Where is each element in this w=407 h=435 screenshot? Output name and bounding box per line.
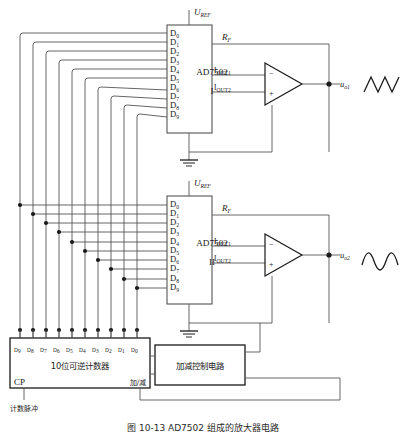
dac1-output-node-dot: [326, 81, 331, 86]
counter-title: 10位可逆计数器: [51, 361, 111, 371]
dac1-opamp-plus: +: [269, 89, 274, 98]
figure-caption: 图 10-13 AD7502 组成的放大器电路: [127, 422, 279, 433]
control-top-wire: [245, 323, 260, 352]
counter-cp-label: CP: [14, 377, 25, 387]
bus-line-d0: [20, 33, 167, 368]
counter-group: D9 D8 D7 D6 D5 D4 D3 D2 D1 D0 10位可逆计数器 C…: [10, 330, 150, 413]
junction-dot: [122, 277, 126, 281]
dac1-data-pin-labels: D0 D1 D2 D3 D4 D5 D6 D7 D8 D9: [170, 28, 179, 120]
counter-pin-stubs: [20, 330, 137, 338]
circuit-diagram-root: UREF AD7502 I D0 D1 D2 D3 D4 D5 D6 D7 D8…: [0, 0, 407, 435]
dac2-output-label: uo2: [340, 250, 350, 261]
dac2-rf-label: RF: [221, 203, 232, 214]
dac1-group: UREF AD7502 I D0 D1 D2 D3 D4 D5 D6 D7 D8…: [167, 7, 399, 166]
bus-line-d2: [46, 51, 167, 368]
junction-dot: [83, 249, 87, 253]
data-bus-wiring: [20, 33, 167, 368]
junction-dot: [70, 240, 74, 244]
counter-mode-label: 加/减: [130, 378, 146, 387]
bus-line-d6: [98, 87, 167, 368]
dac2-iout2-label: IOUT2: [214, 254, 231, 264]
dac2-opamp-plus: +: [269, 260, 274, 269]
circuit-svg: UREF AD7502 I D0 D1 D2 D3 D4 D5 D6 D7 D8…: [0, 0, 407, 435]
counter-pulse-label: 计数脉冲: [10, 404, 38, 413]
dac2-vref-label: UREF: [194, 178, 211, 189]
junction-dot: [31, 212, 35, 216]
dac1-output-label: uo1: [340, 79, 350, 90]
junction-dot: [109, 267, 113, 271]
dac1-iout2-label: IOUT2: [214, 83, 231, 93]
ground-icon: [180, 331, 198, 337]
dac2-data-pin-labels: D0 D1 D2 D3 D4 D5 D6 D7 D8 D9: [170, 199, 179, 293]
ground-icon: [180, 160, 198, 166]
junction-dot: [18, 203, 22, 207]
dac2-opamp-minus: −: [269, 240, 274, 249]
dac2-group: UREF AD7502 II D0 D1 D2 D3 D4 D5 D6 D7 D…: [167, 178, 398, 337]
junction-dot: [57, 230, 61, 234]
control-block-group: 加减控制电路: [140, 323, 340, 400]
bus-line-d9: [137, 114, 167, 368]
dac2-output-node-dot: [326, 252, 331, 257]
control-block-label: 加减控制电路: [176, 361, 225, 371]
dac1-rf-label: RF: [221, 32, 232, 43]
dac1-triangle-waveform-icon: [364, 77, 399, 92]
dac1-vref-label: UREF: [194, 7, 211, 18]
dac1-opamp-minus: −: [269, 69, 274, 78]
bus-line-d8: [124, 105, 167, 368]
junction-dot: [135, 286, 139, 290]
bus-junction-dots: [18, 203, 139, 332]
junction-dot: [44, 221, 48, 225]
bus-line-d4: [72, 69, 167, 368]
dac2-sine-waveform-icon: [362, 253, 398, 270]
junction-dot: [96, 258, 100, 262]
